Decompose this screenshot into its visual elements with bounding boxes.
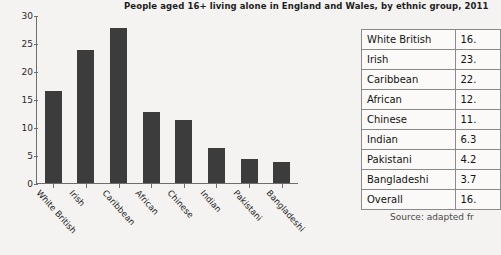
table-cell-category: Pakistani: [362, 150, 456, 170]
bar: [143, 112, 160, 183]
bar: [175, 120, 192, 183]
y-tick-label: 25: [22, 39, 33, 49]
x-tick-label: Chinese: [166, 188, 196, 220]
table-cell-category: African: [362, 90, 456, 110]
table-row: Pakistani4.2: [362, 150, 501, 170]
table-cell-category: Chinese: [362, 110, 456, 130]
x-tick-label: Caribbean: [100, 188, 137, 227]
table-cell-category: White British: [362, 30, 456, 50]
bar: [110, 28, 127, 183]
y-tick-label: 0: [27, 179, 33, 189]
x-axis-labels: White BritishIrishCaribbeanAfricanChines…: [36, 188, 298, 255]
y-tick-label: 15: [22, 95, 33, 105]
bar-slot: [233, 16, 266, 183]
bar: [77, 50, 94, 183]
table-row: Caribbean22.: [362, 70, 501, 90]
bar: [241, 159, 258, 183]
bar-slot: [37, 16, 70, 183]
table-cell-category: Irish: [362, 50, 456, 70]
table-cell-category: Overall: [362, 190, 456, 210]
table-row: Indian6.3: [362, 130, 501, 150]
x-tick-label: Indian: [199, 188, 224, 214]
x-tick-label: African: [133, 188, 160, 217]
bar-chart: 302520151050 White BritishIrishCaribbean…: [0, 12, 355, 255]
plot-area: 302520151050: [36, 16, 298, 184]
bar-slot: [200, 16, 233, 183]
table-cell-value: 4.2: [455, 150, 501, 170]
table-cell-category: Indian: [362, 130, 456, 150]
table-cell-category: Caribbean: [362, 70, 456, 90]
bar-slot: [135, 16, 168, 183]
y-tick-label: 20: [22, 67, 33, 77]
y-tick-label: 5: [27, 151, 33, 161]
bar-slot: [70, 16, 103, 183]
table-cell-value: 16.: [455, 190, 501, 210]
table-row: Overall16.: [362, 190, 501, 210]
x-tick-label: Irish: [68, 188, 88, 208]
table-row: Chinese11.: [362, 110, 501, 130]
table-cell-value: 6.3: [455, 130, 501, 150]
source-note: Source: adapted fr: [390, 212, 474, 222]
table-cell-value: 22.: [455, 70, 501, 90]
table-cell-category: Bangladeshi: [362, 170, 456, 190]
table-row: Irish23.: [362, 50, 501, 70]
chart-title: People aged 16+ living alone in England …: [124, 1, 490, 11]
table-cell-value: 3.7: [455, 170, 501, 190]
bar: [273, 162, 290, 183]
data-table: White British16.Irish23.Caribbean22.Afri…: [361, 29, 501, 210]
table-cell-value: 23.: [455, 50, 501, 70]
bar-slot: [168, 16, 201, 183]
table-cell-value: 12.: [455, 90, 501, 110]
table-row: White British16.: [362, 30, 501, 50]
table-cell-value: 11.: [455, 110, 501, 130]
table-row: African12.: [362, 90, 501, 110]
y-tick-mark: [34, 184, 38, 185]
table-row: Bangladeshi3.7: [362, 170, 501, 190]
y-tick-label: 30: [22, 11, 33, 21]
bar-slot: [102, 16, 135, 183]
x-tick-label: Bangladeshi: [264, 188, 306, 233]
x-tick-label: Pakistani: [231, 188, 264, 223]
bar-series: [37, 16, 298, 183]
bar: [208, 148, 225, 183]
y-tick-label: 10: [22, 123, 33, 133]
bar-slot: [265, 16, 298, 183]
bar: [45, 91, 62, 183]
table-cell-value: 16.: [455, 30, 501, 50]
